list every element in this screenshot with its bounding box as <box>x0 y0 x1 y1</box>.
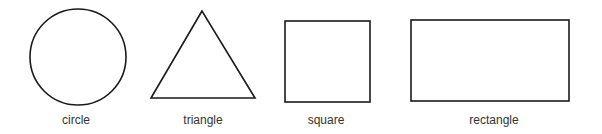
triangle-label: triangle <box>183 113 223 127</box>
circle-figure: circle <box>30 9 126 127</box>
square-label: square <box>308 113 345 127</box>
rectangle-label: rectangle <box>469 113 519 127</box>
square-figure: square <box>285 21 370 127</box>
rectangle-shape <box>411 20 569 101</box>
triangle-shape <box>151 11 255 98</box>
circle-shape <box>30 9 126 105</box>
square-shape <box>285 21 370 102</box>
circle-label: circle <box>62 113 90 127</box>
rectangle-figure: rectangle <box>411 20 569 127</box>
triangle-figure: triangle <box>151 11 255 127</box>
shapes-diagram: circle triangle square rectangle <box>0 0 602 134</box>
